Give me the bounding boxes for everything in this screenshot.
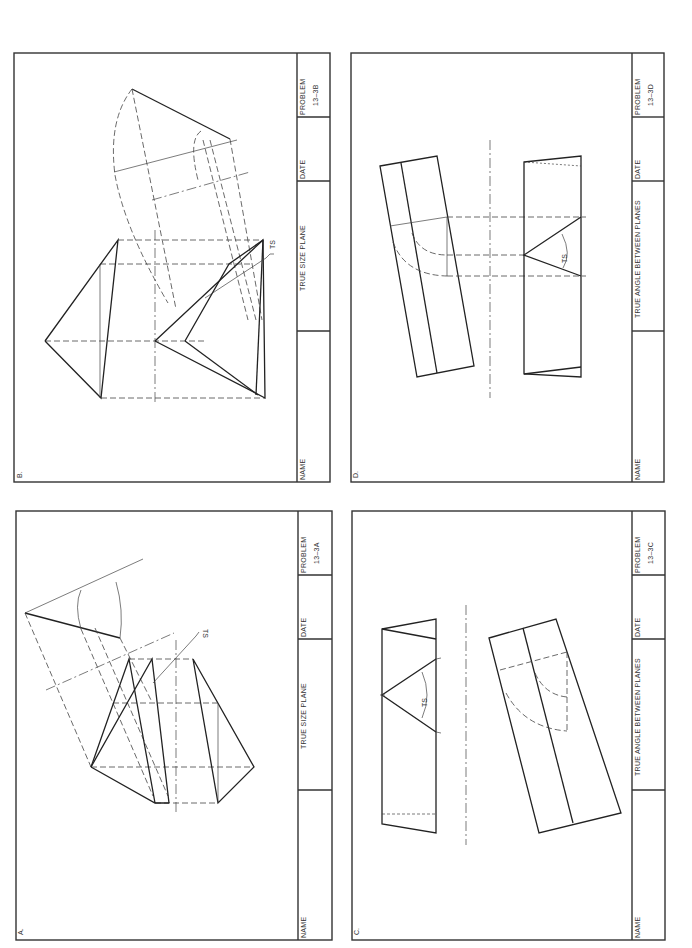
panel-d: NAME TRUE ANGLE BETWEEN PLANES DATE PROB… [351, 53, 664, 482]
title-text: TRUE ANGLE BETWEEN PLANES [634, 658, 641, 776]
title-block-c: NAME TRUE ANGLE BETWEEN PLANES DATE PROB… [632, 511, 665, 940]
panel-label: A. [17, 928, 24, 935]
date-label: DATE [299, 160, 306, 179]
panel-a-border [16, 511, 332, 940]
problem-label: PROBLEM [634, 79, 641, 115]
name-label: NAME [634, 917, 641, 938]
problem-label: PROBLEM [300, 537, 307, 573]
panel-c-border [352, 511, 665, 940]
pyramid-drawing-b: TS [45, 89, 276, 405]
ts-annotation: TS [202, 629, 209, 638]
name-label: NAME [634, 459, 641, 480]
problem-label: PROBLEM [299, 79, 306, 115]
name-label: NAME [300, 917, 307, 938]
panel-label: D. [352, 471, 359, 478]
panel-label: C. [353, 928, 360, 935]
title-text: TRUE ANGLE BETWEEN PLANES [634, 200, 641, 318]
title-block-b: NAME TRUE SIZE PLANE DATE PROBLEM 13–3B [297, 53, 330, 482]
panel-b-border [14, 53, 330, 482]
name-label: NAME [299, 459, 306, 480]
drawing-sheet: NAME TRUE SIZE PLANE DATE PROBLEM 13–3B … [0, 0, 692, 948]
problem-label: PROBLEM [634, 537, 641, 573]
pyramid-drawing-a: TS [25, 559, 254, 812]
ts-annotation: TS [421, 698, 428, 707]
problem-number: 13–3C [647, 542, 654, 564]
planes-drawing-c: TS [380, 605, 621, 845]
problem-number: 13–3B [312, 84, 319, 106]
date-label: DATE [634, 618, 641, 637]
date-label: DATE [300, 618, 307, 637]
title-text: TRUE SIZE PLANE [299, 225, 306, 291]
problem-number: 13–3D [647, 84, 654, 106]
title-text: TRUE SIZE PLANE [300, 683, 307, 749]
panel-c: NAME TRUE ANGLE BETWEEN PLANES DATE PROB… [352, 511, 665, 940]
date-label: DATE [634, 160, 641, 179]
panel-label: B. [16, 471, 23, 478]
title-block-d: NAME TRUE ANGLE BETWEEN PLANES DATE PROB… [632, 53, 664, 482]
panel-a: NAME TRUE SIZE PLANE DATE PROBLEM 13–3A … [16, 511, 332, 940]
problem-number: 13–3A [313, 542, 320, 564]
title-block-a: NAME TRUE SIZE PLANE DATE PROBLEM 13–3A [298, 511, 332, 940]
ts-annotation: TS [561, 254, 568, 263]
panel-b: NAME TRUE SIZE PLANE DATE PROBLEM 13–3B … [14, 53, 330, 482]
planes-drawing-d: TS [380, 140, 586, 398]
ts-annotation: TS [269, 240, 276, 249]
